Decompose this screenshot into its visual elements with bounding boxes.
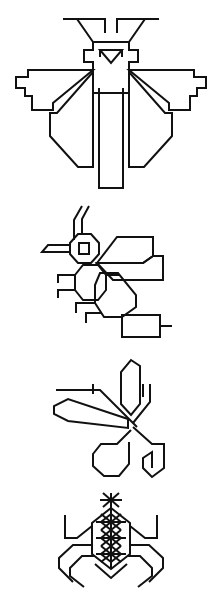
- fig3-right-wing: [133, 384, 150, 423]
- fig2-inner-antenna: [82, 206, 89, 235]
- fig1-eye-bowtie-mark: [100, 50, 122, 63]
- fig3-left-wing: [54, 399, 128, 428]
- fig2-tail-box: [122, 315, 160, 337]
- fig2-thorax-octagon: [75, 265, 106, 300]
- fig2-hindleg-2: [86, 313, 101, 323]
- figure-1-bee-or-wasp-frontal-glyph: [0, 0, 222, 195]
- figure-3-dragonfly-diagonal-glyph: [0, 350, 222, 490]
- fig1-left-antenna: [63, 19, 93, 42]
- fig2-proboscis: [42, 245, 70, 252]
- figure-2-fly-side-profile-glyph: [0, 195, 222, 350]
- fig4-left-antenna: [65, 515, 92, 538]
- fig1-right-hindwing: [129, 72, 172, 167]
- fig3-leg-loop: [93, 430, 131, 476]
- fig2-hindleg-1: [76, 303, 95, 313]
- fig1-right-antenna: [129, 19, 159, 42]
- figure-plate: Stylized insect line-art figure strip Fr…: [0, 0, 222, 589]
- figure-4-ant-or-beetle-frontal-glyph: [0, 488, 222, 589]
- fig1-abdomen: [99, 88, 123, 188]
- fig3-tail-hook: [133, 427, 164, 477]
- fig4-right-hindleg: [127, 556, 152, 587]
- fig4-right-antenna: [130, 515, 157, 538]
- fig2-eye-square: [79, 243, 89, 254]
- fig3-upright-wing-blade: [121, 360, 140, 415]
- fig2-upper-wing: [97, 237, 153, 263]
- fig2-head-octagon: [70, 234, 99, 263]
- fig2-midleg: [58, 290, 75, 298]
- fig2-foreleg: [58, 275, 75, 283]
- fig1-left-hindwing: [50, 72, 93, 167]
- fig4-left-hindleg: [70, 556, 95, 587]
- fig1-left-forewing: [16, 70, 93, 110]
- fig1-right-forewing: [129, 70, 206, 110]
